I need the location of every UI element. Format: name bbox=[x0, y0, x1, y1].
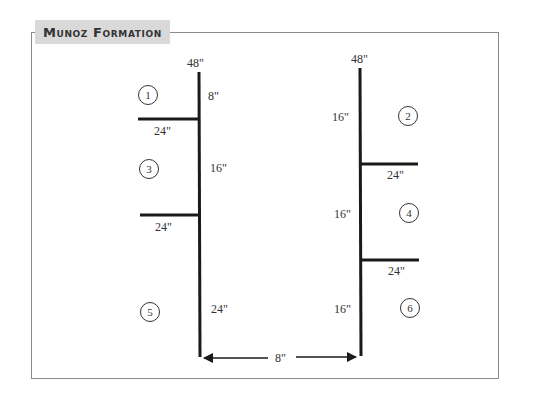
position-3-marker: 3 bbox=[139, 159, 159, 179]
position-2-number: 2 bbox=[405, 110, 411, 122]
position-3-number: 3 bbox=[146, 163, 152, 175]
left-pole-height-label: 48" bbox=[187, 56, 204, 71]
right-arm-2-label: 24" bbox=[388, 264, 405, 279]
position-1-number: 1 bbox=[145, 89, 151, 101]
left-arm-1-label: 24" bbox=[154, 124, 171, 139]
position-4-marker: 4 bbox=[399, 203, 419, 223]
formation-diagram bbox=[0, 0, 552, 409]
right-pole bbox=[360, 68, 361, 356]
position-1-marker: 1 bbox=[138, 85, 158, 105]
position-4-number: 4 bbox=[406, 207, 412, 219]
right-arm-1-label: 24" bbox=[387, 168, 404, 183]
right-segment-3-label: 16" bbox=[334, 302, 351, 317]
position-5-number: 5 bbox=[147, 306, 153, 318]
right-segment-1-label: 16" bbox=[332, 110, 349, 125]
position-2-marker: 2 bbox=[398, 106, 418, 126]
left-segment-1-label: 8" bbox=[208, 89, 219, 104]
position-5-marker: 5 bbox=[140, 302, 160, 322]
left-segment-3-label: 24" bbox=[211, 302, 228, 317]
right-segment-2-label: 16" bbox=[334, 207, 351, 222]
right-pole-height-label: 48" bbox=[351, 52, 368, 67]
left-arm-2-label: 24" bbox=[155, 220, 172, 235]
spacing-label: 8" bbox=[275, 351, 286, 366]
left-pole bbox=[199, 72, 200, 357]
position-6-number: 6 bbox=[407, 302, 413, 314]
position-6-marker: 6 bbox=[400, 298, 420, 318]
left-segment-2-label: 16" bbox=[210, 161, 227, 176]
